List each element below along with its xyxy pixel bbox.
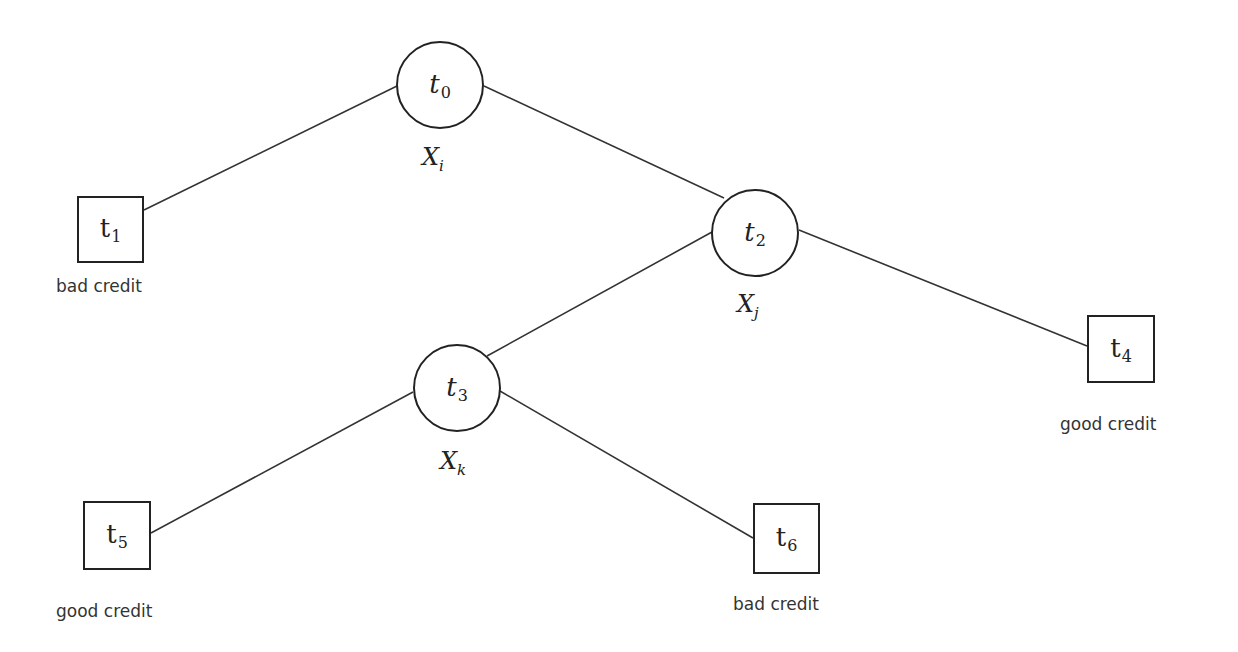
caption-t4: good credit: [1060, 414, 1156, 434]
node-t3: t3: [413, 344, 501, 432]
node-t6-label: t6: [776, 522, 798, 555]
caption-t5: good credit: [56, 601, 152, 621]
node-t2-label: t2: [744, 217, 766, 250]
node-t4: t4: [1087, 315, 1155, 383]
edge-t3-t5: [151, 392, 413, 533]
edge-t0-t2: [484, 86, 724, 198]
node-t0: t0: [396, 41, 484, 129]
split-var-xi: Xi: [422, 143, 444, 175]
node-t2: t2: [711, 189, 799, 277]
split-var-xk: Xk: [440, 447, 466, 479]
node-t5: t5: [83, 501, 151, 570]
edge-t2-t4: [799, 230, 1087, 346]
edge-t0-t1: [144, 86, 397, 210]
node-t4-label: t4: [1110, 333, 1132, 366]
node-t6: t6: [753, 503, 820, 574]
node-t1: t1: [77, 196, 144, 263]
caption-t6: bad credit: [733, 594, 819, 614]
tree-edges: [0, 0, 1238, 652]
node-t3-label: t3: [446, 372, 468, 405]
caption-t1: bad credit: [56, 276, 142, 296]
node-t5-label: t5: [106, 519, 128, 552]
node-t1-label: t1: [100, 213, 122, 246]
node-t0-label: t0: [429, 69, 451, 102]
split-var-xj: Xj: [737, 290, 759, 322]
edge-t3-t6: [500, 391, 753, 538]
edge-t2-t3: [487, 232, 712, 356]
